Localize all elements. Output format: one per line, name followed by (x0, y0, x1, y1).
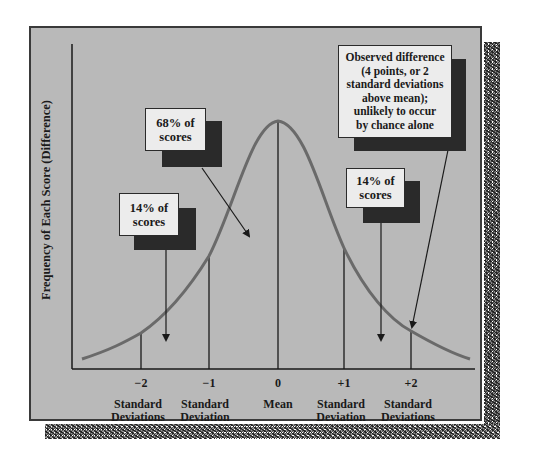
callout-text: 14% of (356, 174, 395, 188)
tick-label-plus1: +1 (338, 376, 351, 391)
sd-label-mean: Mean (263, 398, 292, 411)
tick-label-mean: 0 (275, 376, 281, 391)
tick-label-minus1: −1 (203, 376, 216, 391)
sd-label-line: Deviations (381, 411, 435, 424)
callout-text: scores (356, 188, 395, 202)
sd-label-plus1: Standard Deviation (316, 398, 365, 424)
callout-text: unlikely to occur (345, 105, 444, 119)
tick-label-plus2: +2 (405, 376, 418, 391)
sd-label-line: Deviation (316, 411, 365, 424)
callout-text: 68% of (156, 116, 195, 130)
sd-label-line: Deviations (111, 411, 165, 424)
callout-text: Observed difference (345, 51, 444, 65)
callout-text: by chance alone (345, 119, 444, 133)
sd-label-minus1: Standard Deviation (180, 398, 229, 424)
sd-label-line: Deviation (180, 411, 229, 424)
callout-text: 14% of (130, 201, 169, 215)
callout-text: scores (156, 130, 195, 144)
tick-label-minus2: −2 (135, 376, 148, 391)
arrow-observed (412, 150, 448, 327)
callout-text: scores (130, 215, 169, 229)
sd-label-minus2: Standard Deviations (111, 398, 165, 424)
callout-text: standard deviations (345, 78, 444, 92)
sd-label-line: Mean (263, 398, 292, 411)
callout-text: (4 points, or 2 (345, 65, 444, 79)
sd-label-plus2: Standard Deviations (381, 398, 435, 424)
callout-text: above mean); (345, 92, 444, 106)
